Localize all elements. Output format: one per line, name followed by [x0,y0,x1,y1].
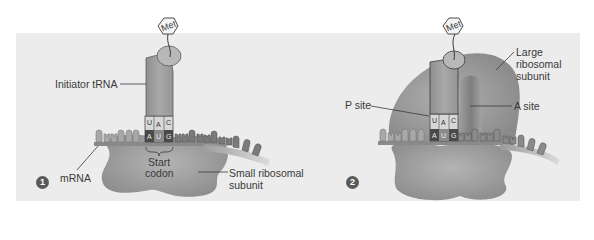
codon-base-2: U [156,131,161,143]
anticodon-base-2-p2: A [441,117,446,129]
anticodon-base-2: A [156,119,161,131]
codon-base-3-p2: G [451,130,456,142]
large-subunit-label-line1: Large [516,46,543,58]
large-subunit-label-line2: ribosomal [516,58,562,70]
anticodon-base-1: U [147,117,152,129]
small-subunit-label-line1: Small ribosomal [229,167,304,179]
step-2-badge: 2 [346,176,359,189]
start-codon-label-line2: codon [145,167,174,179]
codon-base-1-p2: A [432,130,437,142]
step-1-badge: 1 [36,176,49,189]
codon-base-1: A [147,131,152,143]
large-subunit-label-line3: subunit [516,70,550,82]
a-site-label: A site [514,100,540,112]
small-ribosomal-subunit-shape-2 [392,143,512,201]
initiator-trna-label: Initiator tRNA [55,78,117,90]
codon-base-3: G [166,131,171,143]
small-subunit-label-line2: subunit [229,179,263,191]
codon-base-2-p2: U [441,130,446,142]
anticodon-base-1-p2: U [432,115,437,127]
anticodon-base-3-p2: C [451,115,456,127]
mrna-label: mRNA [60,172,91,184]
p-site-label: P site [345,99,371,111]
anticodon-base-3: C [166,117,171,129]
